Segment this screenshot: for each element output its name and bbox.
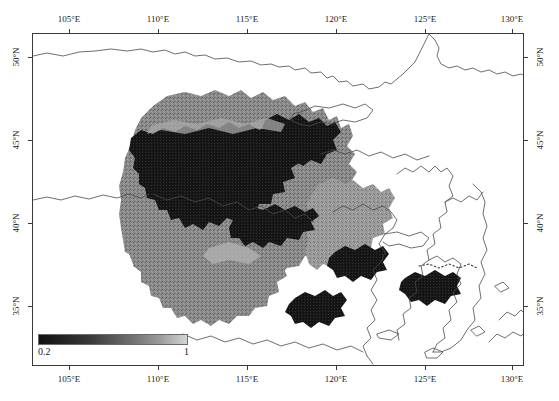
coastline-korea-east [433, 184, 487, 352]
tick-top-130e [512, 29, 513, 33]
tick-right-40n [524, 223, 528, 224]
ylabel-left-35n: 35°N [11, 296, 21, 315]
tick-right-35n [524, 306, 528, 307]
raster-data-layer [119, 90, 461, 328]
coastline-island-small-1 [377, 330, 399, 340]
ylabel-left-50n: 50°N [11, 47, 21, 66]
ylabel-right-45n: 45°N [535, 130, 545, 149]
xlabel-bottom-130e: 130°E [501, 374, 524, 384]
tick-top-105e [69, 29, 70, 33]
ylabel-left-45n: 45°N [11, 130, 21, 149]
ylabel-right-40n: 40°N [535, 213, 545, 232]
map-plot-area[interactable] [32, 33, 524, 366]
ylabel-left-40n: 40°N [11, 213, 21, 232]
xlabel-bottom-110e: 110°E [147, 374, 169, 384]
tick-top-110e [158, 29, 159, 33]
raster-dark-patch-korea [399, 270, 461, 306]
tick-bottom-115e [247, 366, 248, 370]
tick-bottom-125e [425, 366, 426, 370]
tick-right-50n [524, 57, 528, 58]
colorbar-min-label: 0.2 [38, 346, 51, 357]
map-canvas [33, 34, 523, 365]
coastline-island-small-2 [471, 326, 485, 336]
tick-top-120e [336, 29, 337, 33]
raster-dark-patch-south [285, 290, 347, 328]
tick-bottom-130e [512, 366, 513, 370]
xlabel-top-130e: 130°E [501, 14, 524, 24]
map-figure: 105°E 110°E 115°E 120°E 125°E 130°E 105°… [0, 0, 559, 401]
xlabel-top-105e: 105°E [58, 14, 81, 24]
tick-bottom-120e [336, 366, 337, 370]
coastline-east-china [367, 356, 373, 364]
tick-bottom-105e [69, 366, 70, 370]
xlabel-top-120e: 120°E [325, 14, 348, 24]
tick-left-35n [28, 306, 32, 307]
tick-left-45n [28, 140, 32, 141]
ylabel-right-35n: 35°N [535, 296, 545, 315]
coastline-japan-fragment-2 [489, 332, 523, 342]
xlabel-bottom-115e: 115°E [236, 374, 258, 384]
tick-left-40n [28, 223, 32, 224]
border-dmz-dotted [419, 264, 477, 268]
colorbar-gradient [38, 334, 188, 345]
raster-midgray-southwest-tail [129, 234, 289, 326]
coastline-japan-fragment [499, 310, 523, 320]
border-korea-china [445, 192, 483, 202]
xlabel-bottom-125e: 125°E [414, 374, 437, 384]
tick-top-115e [247, 29, 248, 33]
tick-bottom-110e [158, 366, 159, 370]
colorbar-max-label: 1 [184, 346, 189, 357]
tick-left-50n [28, 57, 32, 58]
xlabel-bottom-105e: 105°E [58, 374, 81, 384]
xlabel-top-115e: 115°E [236, 14, 258, 24]
xlabel-top-125e: 125°E [414, 14, 437, 24]
tick-top-125e [425, 29, 426, 33]
tick-right-45n [524, 140, 528, 141]
coastline-shandong [383, 232, 429, 248]
ylabel-right-50n: 50°N [535, 47, 545, 66]
border-northeast-amur [429, 34, 523, 76]
border-south-inland [183, 334, 363, 352]
border-north-mongolia [33, 34, 429, 89]
xlabel-bottom-120e: 120°E [325, 374, 348, 384]
xlabel-top-110e: 110°E [147, 14, 169, 24]
coastline-liaodong-korea [397, 166, 453, 340]
coastline-island-small-3 [495, 282, 509, 292]
